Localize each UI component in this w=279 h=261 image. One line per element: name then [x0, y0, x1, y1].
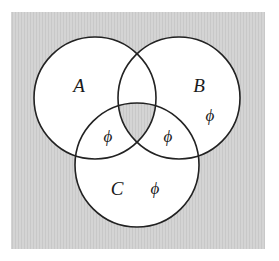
set-label-c: C: [111, 178, 124, 199]
empty-marker-c: ϕ: [151, 179, 160, 198]
empty-marker-b: ϕ: [206, 106, 215, 125]
empty-marker-ac: ϕ: [104, 127, 113, 146]
empty-marker-bc: ϕ: [164, 127, 173, 146]
venn-diagram: A B C ϕ ϕ ϕ ϕ: [0, 0, 279, 261]
set-label-b: B: [193, 75, 205, 96]
set-label-a: A: [71, 75, 85, 96]
